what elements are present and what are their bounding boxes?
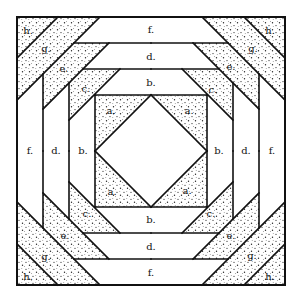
label-br-g: g. bbox=[247, 250, 257, 261]
label-tr-e: e. bbox=[226, 61, 235, 72]
label-tr-a: a. bbox=[184, 105, 193, 116]
label-br-c: c. bbox=[207, 208, 216, 219]
label-top-b: b. bbox=[146, 77, 156, 88]
label-left-d: d. bbox=[51, 145, 61, 156]
label-br-h: h. bbox=[265, 271, 275, 282]
label-right-b: b. bbox=[214, 145, 224, 156]
label-bl-e: e. bbox=[60, 230, 69, 241]
label-left-b: b. bbox=[78, 145, 88, 156]
label-tr-c: c. bbox=[209, 84, 218, 95]
label-tr-g: g. bbox=[248, 43, 258, 54]
label-bottom-b: b. bbox=[146, 214, 156, 225]
label-bl-a: a. bbox=[107, 186, 116, 197]
label-tr-h: h. bbox=[265, 25, 275, 36]
label-tl-a: a. bbox=[106, 105, 115, 116]
label-tl-e: e. bbox=[59, 63, 68, 74]
label-bottom-f: f. bbox=[148, 267, 155, 278]
label-top-d: d. bbox=[146, 51, 156, 62]
label-br-a: a. bbox=[182, 185, 191, 196]
label-bottom-d: d. bbox=[146, 241, 156, 252]
label-tl-c: c. bbox=[82, 83, 91, 94]
label-right-d: d. bbox=[241, 145, 251, 156]
label-left-f: f. bbox=[27, 145, 34, 156]
label-right-f: f. bbox=[269, 145, 276, 156]
quadrant-top-right bbox=[151, 17, 285, 151]
quadrant-bottom-right bbox=[151, 151, 285, 285]
label-top-f: f. bbox=[148, 24, 155, 35]
label-tl-h: h. bbox=[23, 25, 33, 36]
label-bl-c: c. bbox=[83, 208, 92, 219]
label-bl-h: h. bbox=[23, 271, 33, 282]
label-bl-g: g. bbox=[41, 251, 51, 262]
label-br-e: e. bbox=[226, 230, 235, 241]
label-tl-g: g. bbox=[41, 43, 51, 54]
quilt-block-diagram: f. d. b. f. d. b. f. d. b. f. d. b. h. g… bbox=[0, 0, 303, 303]
